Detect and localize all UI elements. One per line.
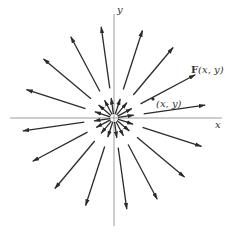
vector-arrow xyxy=(44,59,92,99)
vector-arrow xyxy=(71,37,100,92)
vector-arrow xyxy=(118,148,127,209)
vector-arrow xyxy=(116,122,124,136)
vector-arrow xyxy=(137,137,185,177)
vector-arrow xyxy=(96,120,110,128)
vector-arrow xyxy=(101,27,110,88)
y-axis-label: y xyxy=(117,4,123,15)
vector-arrow xyxy=(115,122,117,138)
point-marker xyxy=(151,97,154,100)
vector-arrow xyxy=(55,141,95,189)
point-label: (x, y) xyxy=(156,98,181,109)
vector-arrow xyxy=(94,119,110,121)
vector-arrow xyxy=(105,100,113,114)
vector-arrow xyxy=(111,98,113,114)
vector-arrow xyxy=(123,31,142,90)
vector-arrow xyxy=(128,145,157,200)
x-axis-label: x xyxy=(215,119,221,130)
vector-arrow xyxy=(33,132,88,161)
vector-arrow xyxy=(27,90,86,109)
vector-arrow xyxy=(86,147,105,206)
vector-label-args: (x, y) xyxy=(198,64,223,75)
vector-arrow xyxy=(143,127,202,146)
vector-label: F(x, y) xyxy=(191,64,224,75)
vector-arrow xyxy=(23,122,84,131)
vector-arrow xyxy=(118,109,132,117)
vector-arrow xyxy=(118,115,134,117)
vector-arrow xyxy=(133,48,173,96)
vector-field-diagram xyxy=(0,0,234,234)
